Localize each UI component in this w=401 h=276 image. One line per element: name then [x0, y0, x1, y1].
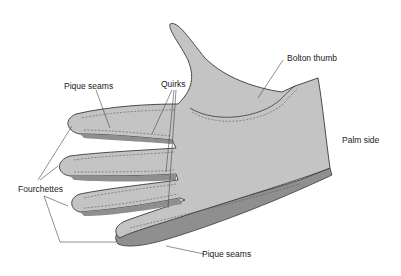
- label-pique-seams-bottom: Pique seams: [202, 250, 251, 259]
- leader-pique-seams-bottom: [166, 246, 204, 254]
- label-quirks: Quirks: [161, 80, 186, 89]
- label-pique-seams-top: Pique seams: [64, 82, 113, 91]
- label-bolton-thumb: Bolton thumb: [287, 54, 337, 63]
- leader-fourchettes-3: [44, 196, 68, 206]
- glove-diagram: [0, 0, 401, 276]
- label-palm-side: Palm side: [342, 136, 379, 145]
- label-fourchettes: Fourchettes: [18, 185, 63, 194]
